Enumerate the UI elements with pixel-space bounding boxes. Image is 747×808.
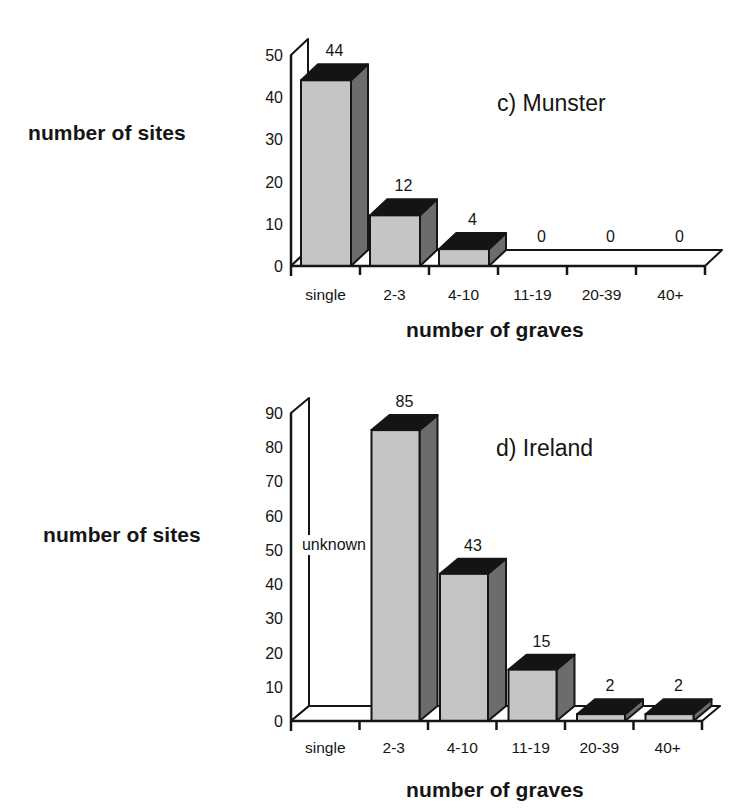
y-tick-label: 20	[265, 645, 283, 662]
back-wall	[291, 398, 309, 721]
x-tick-label: 4-10	[447, 739, 478, 756]
bar-side	[420, 415, 438, 721]
y-tick-label: 70	[265, 473, 283, 490]
x-tick-label: 20-39	[579, 739, 619, 756]
value-label: 15	[533, 633, 551, 650]
annotation-label: unknown	[302, 536, 366, 553]
bar	[440, 559, 506, 721]
x-tick-label: 11-19	[512, 739, 551, 756]
y-tick-label: 30	[265, 610, 283, 627]
bar-front	[509, 670, 557, 721]
value-label: 2	[606, 677, 615, 694]
bar	[509, 655, 575, 721]
bar-front	[372, 430, 420, 721]
bar	[372, 415, 438, 721]
y-tick-label: 10	[265, 679, 283, 696]
x-tick-label: 40+	[655, 739, 681, 756]
x-tick-label: 2-3	[383, 739, 405, 756]
y-tick-label: 0	[274, 713, 283, 730]
x-tick-label: single	[305, 739, 346, 756]
y-tick-label: 80	[265, 439, 283, 456]
y-tick-label: 50	[265, 542, 283, 559]
value-label: 85	[396, 393, 414, 410]
value-label: 2	[674, 677, 683, 694]
value-label: 43	[464, 537, 482, 554]
y-tick-label: 60	[265, 508, 283, 525]
y-tick-label: 40	[265, 576, 283, 593]
y-tick-label: 90	[265, 405, 283, 422]
bar-front	[440, 574, 488, 721]
bar-chart-ireland: 0102030405060708090unknownsingle852-3434…	[0, 0, 747, 808]
bar-side	[488, 559, 506, 721]
